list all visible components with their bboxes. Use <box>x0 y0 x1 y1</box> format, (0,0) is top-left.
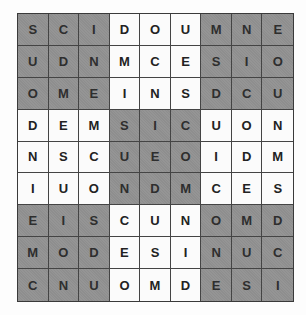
grid-cell-r8-c3[interactable]: D <box>79 237 110 269</box>
grid-cell-r4-c9[interactable]: N <box>262 110 293 142</box>
grid-cell-r3-c3[interactable]: E <box>79 78 110 110</box>
grid-cell-r1-c7[interactable]: M <box>201 14 232 46</box>
grid-cell-r5-c7[interactable]: I <box>201 142 232 174</box>
grid-cell-r3-c4[interactable]: I <box>110 78 141 110</box>
grid-cell-r6-c5[interactable]: D <box>140 173 171 205</box>
grid-cell-r7-c1[interactable]: E <box>18 205 49 237</box>
grid-cell-r6-c4[interactable]: N <box>110 173 141 205</box>
grid-cell-r6-c9[interactable]: S <box>262 173 293 205</box>
grid-cell-r6-c2[interactable]: U <box>49 173 80 205</box>
grid-cell-r9-c7[interactable]: E <box>201 269 232 301</box>
grid-cell-r4-c1[interactable]: D <box>18 110 49 142</box>
grid-cell-r8-c7[interactable]: N <box>201 237 232 269</box>
grid-cell-r2-c2[interactable]: D <box>49 46 80 78</box>
grid-cell-r6-c3[interactable]: O <box>79 173 110 205</box>
grid-cell-r2-c6[interactable]: E <box>171 46 202 78</box>
grid-cell-r5-c9[interactable]: M <box>262 142 293 174</box>
grid-cell-r1-c2[interactable]: C <box>49 14 80 46</box>
grid-cell-r8-c5[interactable]: S <box>140 237 171 269</box>
grid-cell-r3-c9[interactable]: U <box>262 78 293 110</box>
grid-cell-r4-c8[interactable]: O <box>232 110 263 142</box>
grid-cell-r1-c9[interactable]: E <box>262 14 293 46</box>
grid-cell-r7-c2[interactable]: I <box>49 205 80 237</box>
grid-cell-r9-c2[interactable]: N <box>49 269 80 301</box>
grid-cell-r8-c2[interactable]: O <box>49 237 80 269</box>
grid-cell-r1-c6[interactable]: U <box>171 14 202 46</box>
grid-cell-r8-c8[interactable]: U <box>232 237 263 269</box>
grid-cell-r7-c8[interactable]: M <box>232 205 263 237</box>
grid-cell-r7-c7[interactable]: O <box>201 205 232 237</box>
grid-cell-r9-c9[interactable]: I <box>262 269 293 301</box>
grid-cell-r3-c6[interactable]: S <box>171 78 202 110</box>
grid-cell-r2-c7[interactable]: S <box>201 46 232 78</box>
grid-cell-r9-c8[interactable]: S <box>232 269 263 301</box>
grid-cell-r5-c5[interactable]: E <box>140 142 171 174</box>
grid-cell-r9-c1[interactable]: C <box>18 269 49 301</box>
grid-cell-r4-c2[interactable]: E <box>49 110 80 142</box>
grid-cell-r7-c3[interactable]: S <box>79 205 110 237</box>
grid-cell-r4-c6[interactable]: C <box>171 110 202 142</box>
grid-cell-r5-c1[interactable]: N <box>18 142 49 174</box>
grid-cell-r4-c3[interactable]: M <box>79 110 110 142</box>
grid-cell-r3-c5[interactable]: N <box>140 78 171 110</box>
grid-cell-r5-c3[interactable]: C <box>79 142 110 174</box>
grid-cell-r6-c1[interactable]: I <box>18 173 49 205</box>
grid-cell-r5-c8[interactable]: D <box>232 142 263 174</box>
letter-sudoku-grid: SCIDOUMNEUDNMCESIOOMEINSDCUDEMSICUONNSCU… <box>17 13 294 302</box>
grid-cell-r9-c6[interactable]: D <box>171 269 202 301</box>
grid-cell-r5-c6[interactable]: O <box>171 142 202 174</box>
grid-cell-r9-c3[interactable]: U <box>79 269 110 301</box>
grid-cell-r6-c6[interactable]: M <box>171 173 202 205</box>
grid-cell-r7-c4[interactable]: C <box>110 205 141 237</box>
grid-cell-r2-c3[interactable]: N <box>79 46 110 78</box>
grid-cell-r8-c6[interactable]: I <box>171 237 202 269</box>
grid-cell-r8-c1[interactable]: M <box>18 237 49 269</box>
grid-cell-r3-c1[interactable]: O <box>18 78 49 110</box>
grid-cell-r1-c8[interactable]: N <box>232 14 263 46</box>
grid-cell-r3-c7[interactable]: D <box>201 78 232 110</box>
grid-cell-r2-c4[interactable]: M <box>110 46 141 78</box>
grid-cell-r1-c3[interactable]: I <box>79 14 110 46</box>
grid-cell-r1-c4[interactable]: D <box>110 14 141 46</box>
grid-cell-r4-c7[interactable]: U <box>201 110 232 142</box>
grid-cell-r6-c7[interactable]: C <box>201 173 232 205</box>
grid-cell-r6-c8[interactable]: E <box>232 173 263 205</box>
grid-cell-r3-c8[interactable]: C <box>232 78 263 110</box>
grid-cell-r1-c1[interactable]: S <box>18 14 49 46</box>
grid-cell-r7-c5[interactable]: U <box>140 205 171 237</box>
grid-cell-r8-c4[interactable]: E <box>110 237 141 269</box>
grid-cell-r9-c4[interactable]: O <box>110 269 141 301</box>
grid-cell-r4-c5[interactable]: I <box>140 110 171 142</box>
grid-cell-r9-c5[interactable]: M <box>140 269 171 301</box>
grid-cell-r2-c8[interactable]: I <box>232 46 263 78</box>
grid-cell-r2-c1[interactable]: U <box>18 46 49 78</box>
grid-cell-r2-c5[interactable]: C <box>140 46 171 78</box>
grid-cell-r1-c5[interactable]: O <box>140 14 171 46</box>
grid-cell-r7-c9[interactable]: D <box>262 205 293 237</box>
grid-cell-r2-c9[interactable]: O <box>262 46 293 78</box>
grid-cell-r3-c2[interactable]: M <box>49 78 80 110</box>
grid-cell-r4-c4[interactable]: S <box>110 110 141 142</box>
grid-cell-r7-c6[interactable]: N <box>171 205 202 237</box>
grid-cell-r8-c9[interactable]: C <box>262 237 293 269</box>
grid-cell-r5-c4[interactable]: U <box>110 142 141 174</box>
grid-cell-r5-c2[interactable]: S <box>49 142 80 174</box>
